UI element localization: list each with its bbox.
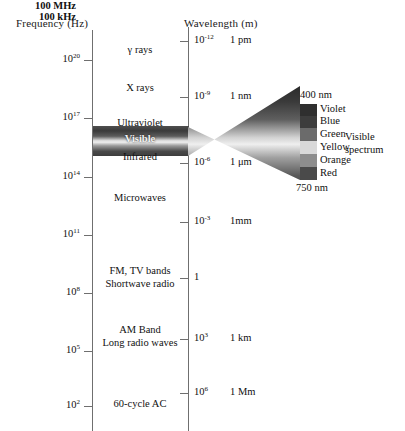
frequency-side-unit-label: 100 MHz bbox=[0, 0, 76, 11]
wavelength-tick bbox=[180, 278, 188, 279]
frequency-tick bbox=[84, 235, 92, 236]
wavelength-tick-label: 1 bbox=[194, 271, 228, 282]
wavelength-750nm-label: 750 nm bbox=[296, 182, 328, 193]
band-label-infrared: Infrared bbox=[123, 151, 157, 162]
visible-spectrum-caption: Visible spectrum bbox=[345, 130, 384, 156]
wavelength-tick-label: 106 bbox=[194, 386, 228, 397]
wavelength-tick bbox=[180, 41, 188, 42]
band-label-ultraviolet: Ultraviolet bbox=[117, 117, 163, 128]
color-name-blue: Blue bbox=[320, 115, 340, 126]
visible-spectrum-caption-line1: Visible bbox=[345, 130, 384, 143]
fan-gradient-cone bbox=[188, 86, 300, 198]
band-label-microwaves: Microwaves bbox=[114, 192, 166, 203]
frequency-tick-label: 1011 bbox=[36, 228, 80, 239]
band-label-sixty-cycle-ac: 60-cycle AC bbox=[114, 398, 167, 409]
band-label-am-band: AM Band bbox=[119, 324, 161, 335]
wavelength-unit-label: 1 Mm bbox=[230, 386, 255, 397]
color-swatch-yellow bbox=[300, 141, 317, 154]
em-spectrum-figure: Frequency (Hz) Wavelength (m) 1020101710… bbox=[0, 0, 405, 431]
frequency-tick bbox=[84, 351, 92, 352]
band-label-gamma-rays: γ rays bbox=[128, 44, 153, 55]
frequency-tick-label: 105 bbox=[36, 344, 80, 355]
wavelength-tick bbox=[180, 222, 188, 223]
wavelength-tick bbox=[180, 339, 188, 340]
frequency-tick-label: 102 bbox=[36, 399, 80, 410]
band-label-x-rays: X rays bbox=[126, 82, 154, 93]
wavelength-tick bbox=[180, 393, 188, 394]
frequency-tick-label: 108 bbox=[36, 286, 80, 297]
frequency-tick bbox=[84, 118, 92, 119]
color-name-violet: Violet bbox=[320, 103, 346, 114]
wavelength-tick-label: 10-12 bbox=[194, 34, 228, 45]
visible-spectrum-fan bbox=[188, 86, 300, 198]
frequency-tick-label: 1020 bbox=[36, 53, 80, 64]
frequency-tick bbox=[84, 60, 92, 61]
wavelength-tick-label: 10-3 bbox=[194, 215, 228, 226]
frequency-tick bbox=[84, 177, 92, 178]
frequency-axis-line bbox=[92, 30, 93, 431]
color-name-green: Green bbox=[320, 128, 346, 139]
band-label-visible: Visible bbox=[125, 133, 156, 144]
visible-color-block bbox=[300, 104, 317, 180]
wavelength-tick bbox=[180, 97, 188, 98]
wavelength-axis-title: Wavelength (m) bbox=[184, 17, 258, 29]
color-swatch-orange bbox=[300, 154, 317, 167]
frequency-tick-label: 1014 bbox=[36, 170, 80, 181]
frequency-tick-label: 1017 bbox=[36, 111, 80, 122]
fan-svg bbox=[188, 86, 300, 198]
color-swatch-blue bbox=[300, 116, 317, 128]
frequency-tick bbox=[84, 406, 92, 407]
wavelength-unit-label: 1 km bbox=[230, 332, 251, 343]
color-swatch-violet bbox=[300, 104, 317, 116]
band-label-long-radio-waves: Long radio waves bbox=[102, 337, 177, 348]
wavelength-tick bbox=[180, 163, 188, 164]
band-label-fm-tv-shortwave: FM, TV bands bbox=[109, 265, 170, 276]
frequency-axis-title: Frequency (Hz) bbox=[16, 17, 88, 29]
wavelength-tick-label: 103 bbox=[194, 332, 228, 343]
wavelength-unit-label: 1mm bbox=[230, 215, 252, 226]
band-label-shortwave-radio: Shortwave radio bbox=[105, 278, 174, 289]
visible-spectrum-caption-line2: spectrum bbox=[345, 143, 384, 156]
wavelength-unit-label: 1 pm bbox=[230, 34, 251, 45]
color-name-red: Red bbox=[320, 167, 337, 178]
color-swatch-red bbox=[300, 167, 317, 180]
wavelength-400nm-label: 400 nm bbox=[300, 89, 332, 100]
color-swatch-green bbox=[300, 128, 317, 141]
frequency-tick bbox=[84, 293, 92, 294]
